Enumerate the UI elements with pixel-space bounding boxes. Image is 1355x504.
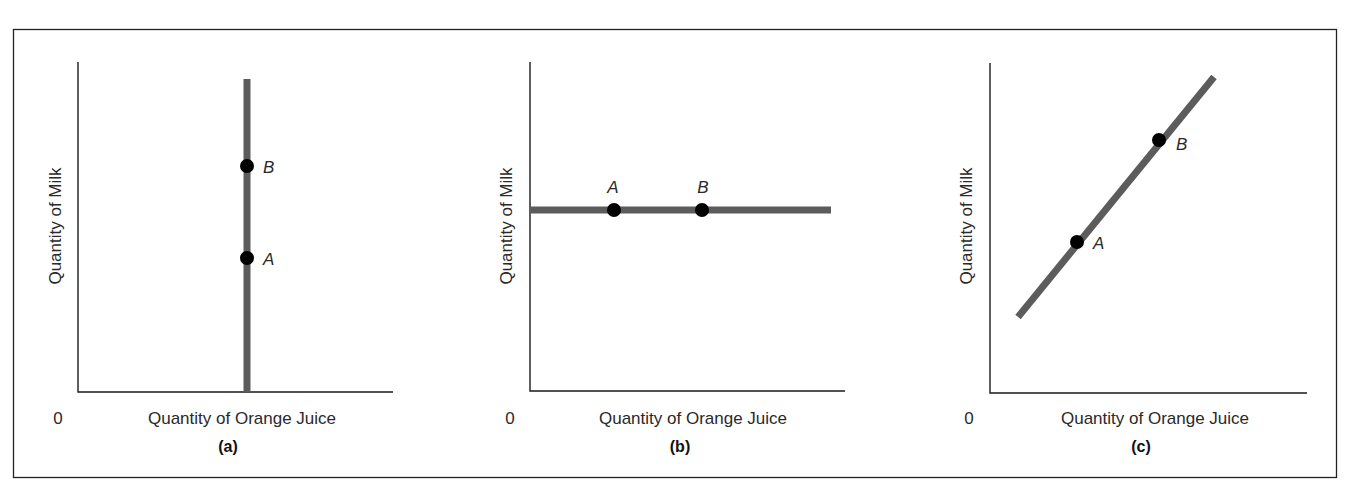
panel-b-caption: (b) bbox=[670, 438, 690, 455]
panel-a-origin-label: 0 bbox=[53, 409, 62, 428]
panel-c-sloped-line bbox=[1018, 77, 1214, 317]
panel-c-y-axis-label: Quantity of Milk bbox=[957, 167, 976, 285]
panel-c-axes bbox=[990, 63, 1307, 393]
panel-b-axes bbox=[530, 62, 845, 391]
panel-b: A B Quantity of Milk 0 Quantity of Orang… bbox=[497, 62, 845, 455]
figure: B A Quantity of Milk 0 Quantity of Orang… bbox=[0, 0, 1355, 504]
panel-c: A B Quantity of Milk 0 Quantity of Orang… bbox=[957, 63, 1307, 455]
panel-c-caption: (c) bbox=[1131, 438, 1151, 455]
panel-a-axes bbox=[78, 62, 393, 392]
panel-a-x-axis-label: Quantity of Orange Juice bbox=[148, 409, 336, 428]
panel-a-caption: (a) bbox=[218, 438, 238, 455]
panel-b-origin-label: 0 bbox=[505, 409, 514, 428]
panel-a-label-b: B bbox=[263, 158, 274, 177]
panel-c-origin-label: 0 bbox=[964, 409, 973, 428]
panel-c-label-a: A bbox=[1092, 234, 1104, 253]
panel-b-y-axis-label: Quantity of Milk bbox=[497, 167, 516, 285]
panel-c-point-b bbox=[1152, 133, 1166, 147]
panel-a-y-axis-label: Quantity of Milk bbox=[46, 167, 65, 285]
panel-a-label-a: A bbox=[262, 250, 274, 269]
panel-a-point-a bbox=[240, 251, 254, 265]
panel-a: B A Quantity of Milk 0 Quantity of Orang… bbox=[46, 62, 393, 455]
panel-c-x-axis-label: Quantity of Orange Juice bbox=[1061, 409, 1249, 428]
panel-b-point-a bbox=[607, 203, 621, 217]
panel-b-x-axis-label: Quantity of Orange Juice bbox=[599, 409, 787, 428]
panel-c-label-b: B bbox=[1176, 135, 1187, 154]
panel-b-point-b bbox=[695, 203, 709, 217]
panel-a-point-b bbox=[240, 159, 254, 173]
panel-c-point-a bbox=[1070, 235, 1084, 249]
panel-b-label-b: B bbox=[697, 178, 708, 197]
panel-b-label-a: A bbox=[606, 178, 618, 197]
